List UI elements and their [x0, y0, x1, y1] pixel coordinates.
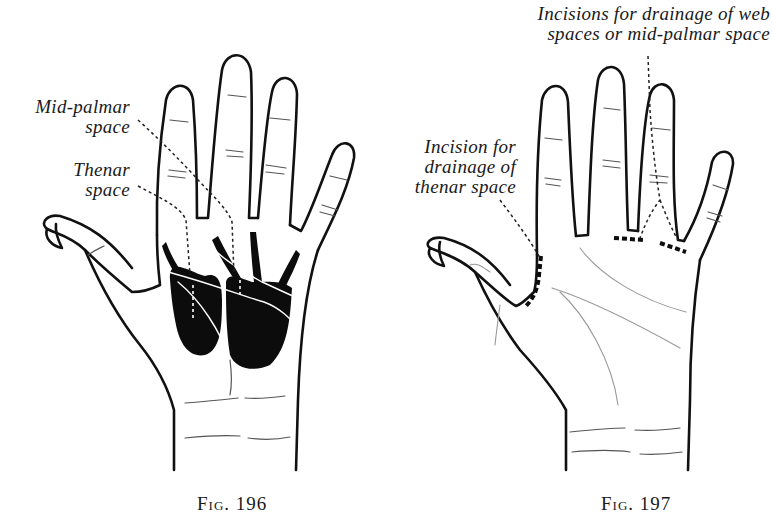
label-thenar: Thenar space — [40, 160, 130, 200]
page: Mid-palmar space Thenar space Incisions … — [0, 0, 772, 527]
fig196-hand-drawing — [0, 0, 772, 527]
fig197-hand — [428, 67, 733, 470]
incision-web-2 — [660, 243, 686, 252]
fig196-spaces — [162, 232, 302, 395]
leader-thenar-incision — [500, 200, 540, 258]
caption-fig196: Fig. 196 — [197, 493, 267, 515]
incision-web-1 — [614, 238, 644, 240]
label-thenar-incision: Incision for drainage of thenar space — [400, 137, 516, 197]
caption-fig197: Fig. 197 — [601, 493, 671, 515]
leader-thenar — [138, 186, 190, 275]
label-mid-palmar: Mid-palmar space — [20, 97, 130, 137]
fig197-incisions — [526, 238, 686, 306]
label-web-incisions: Incisions for drainage of web spaces or … — [510, 4, 770, 44]
